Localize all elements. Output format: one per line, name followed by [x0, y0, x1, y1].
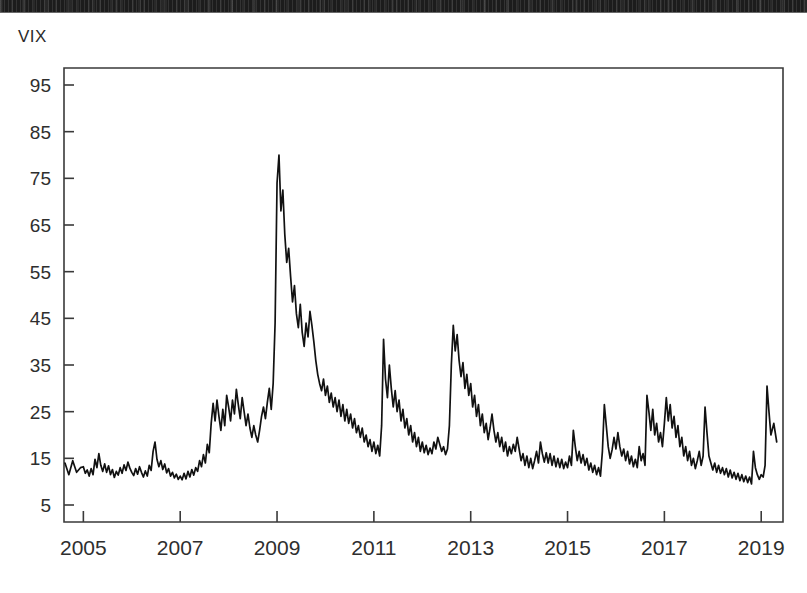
chart-plot-area: 5152535455565758595 20052007200920112013…: [0, 0, 807, 593]
x-tick-label: 2017: [641, 536, 688, 559]
x-tick-label: 2007: [157, 536, 204, 559]
y-axis-ticks: 5152535455565758595: [30, 75, 74, 516]
x-tick-label: 2011: [351, 536, 396, 559]
y-tick-label: 5: [40, 495, 51, 516]
axis-frame: [64, 68, 783, 522]
vix-line-path: [65, 155, 777, 484]
y-tick-label: 95: [30, 75, 51, 96]
y-tick-label: 15: [30, 448, 51, 469]
x-tick-label: 2005: [60, 536, 107, 559]
x-tick-label: 2015: [544, 536, 591, 559]
vix-line-series: [65, 155, 777, 484]
y-tick-label: 85: [30, 122, 51, 143]
vix-chart-figure: VIX 5152535455565758595 2005200720092011…: [0, 0, 807, 593]
y-tick-label: 25: [30, 402, 51, 423]
x-tick-label: 2013: [447, 536, 494, 559]
y-tick-label: 35: [30, 355, 51, 376]
y-tick-label: 45: [30, 308, 51, 329]
x-tick-label: 2019: [738, 536, 785, 559]
y-tick-label: 75: [30, 168, 51, 189]
x-axis-ticks: 20052007200920112013201520172019: [60, 511, 785, 559]
x-tick-label: 2009: [254, 536, 301, 559]
plot-border: [64, 68, 783, 522]
y-tick-label: 55: [30, 262, 51, 283]
y-tick-label: 65: [30, 215, 51, 236]
